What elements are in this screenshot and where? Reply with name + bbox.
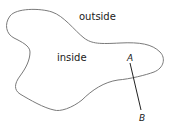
diagram-canvas: outside inside A B	[0, 0, 176, 127]
label-point-b: B	[139, 113, 145, 123]
label-point-a: A	[126, 53, 133, 63]
segment-ab	[130, 63, 141, 110]
label-inside: inside	[57, 52, 87, 63]
label-outside: outside	[79, 11, 116, 22]
